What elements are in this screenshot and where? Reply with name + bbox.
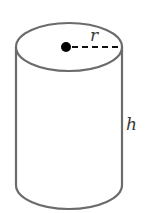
radius-label: r [90,25,99,45]
center-dot [61,42,71,52]
height-label: h [126,114,137,134]
cylinder-bottom-arc [16,185,122,209]
cylinder-diagram: r h [0,0,148,213]
